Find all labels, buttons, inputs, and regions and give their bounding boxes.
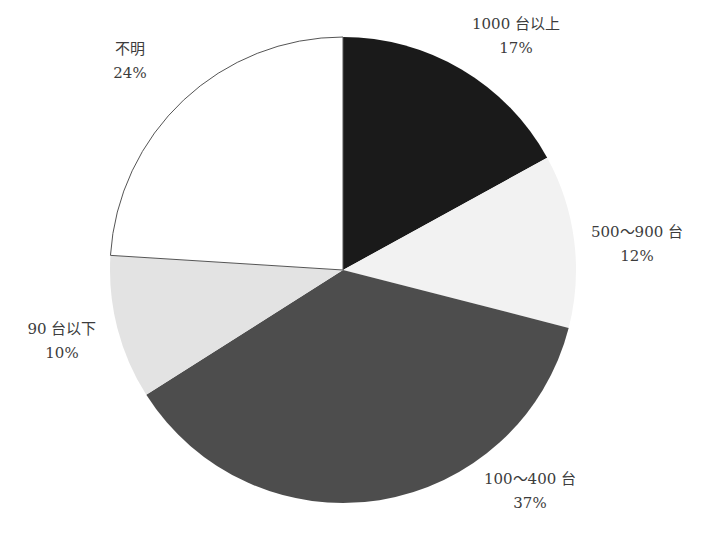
pie-chart xyxy=(0,0,702,538)
slice-label-500-900: 500～900 台 12% xyxy=(591,220,683,268)
slice-label-name: 1000 台以上 xyxy=(472,12,560,36)
slice-label-percent: 37% xyxy=(484,491,576,515)
slice-label-percent: 10% xyxy=(28,341,97,365)
slice-label-name: 不明 xyxy=(113,37,146,61)
slice-label-90-under: 90 台以下 10% xyxy=(28,317,97,365)
slice-label-name: 90 台以下 xyxy=(28,317,97,341)
slice-label-100-400: 100～400 台 37% xyxy=(484,467,576,515)
pie-slices xyxy=(110,37,576,503)
slice-label-percent: 17% xyxy=(472,36,560,60)
slice-label-1000-plus: 1000 台以上 17% xyxy=(472,12,560,60)
slice-label-name: 500～900 台 xyxy=(591,220,683,244)
slice-label-percent: 12% xyxy=(591,244,683,268)
slice-label-unknown: 不明 24% xyxy=(113,37,146,85)
slice-label-percent: 24% xyxy=(113,61,146,85)
slice-label-name: 100～400 台 xyxy=(484,467,576,491)
